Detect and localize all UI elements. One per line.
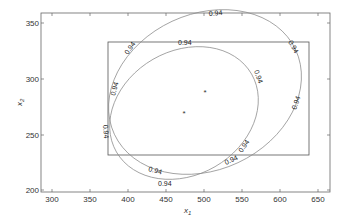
- x-tick-600: 600: [273, 195, 287, 204]
- contour-label: 0.94: [148, 165, 163, 175]
- contour-label: 0.94: [290, 95, 301, 110]
- contour-label: 0.94: [208, 9, 222, 17]
- y-tick-250: 250: [26, 131, 40, 140]
- contour-label: 0.94: [102, 124, 110, 138]
- center-marker-2: *: [203, 88, 206, 97]
- chart-canvas: 300 350 400 450 500 550 600 650 200 250 …: [0, 0, 350, 223]
- contour-label: 0.94: [287, 39, 300, 54]
- x-axis-label: x1: [183, 206, 191, 216]
- y-tick-300: 300: [26, 75, 40, 84]
- contour-label: 0.94: [253, 69, 264, 84]
- y-ticks: [41, 23, 330, 190]
- y-tick-350: 350: [26, 19, 40, 28]
- contour-label: 0.94: [223, 154, 238, 166]
- x-tick-300: 300: [45, 195, 59, 204]
- contour-label: 0.94: [158, 180, 172, 187]
- y-tick-200: 200: [26, 186, 40, 195]
- contour-label: 0.94: [178, 39, 192, 46]
- x-tick-550: 550: [235, 195, 249, 204]
- x-tick-labels: 300 350 400 450 500 550 600 650: [45, 195, 325, 204]
- x-tick-400: 400: [121, 195, 135, 204]
- contour-label: 0.94: [237, 138, 251, 153]
- x-tick-350: 350: [83, 195, 97, 204]
- center-marker-1: *: [182, 109, 185, 118]
- bounding-rectangle: [108, 42, 309, 155]
- outer-contour-labels: 0.94 0.94 0.94 0.94 0.94 0.94: [102, 9, 302, 187]
- x-tick-650: 650: [311, 195, 325, 204]
- x-tick-500: 500: [197, 195, 211, 204]
- y-tick-labels: 200 250 300 350: [26, 19, 40, 195]
- y-axis-label: x2: [15, 98, 25, 107]
- x-tick-450: 450: [159, 195, 173, 204]
